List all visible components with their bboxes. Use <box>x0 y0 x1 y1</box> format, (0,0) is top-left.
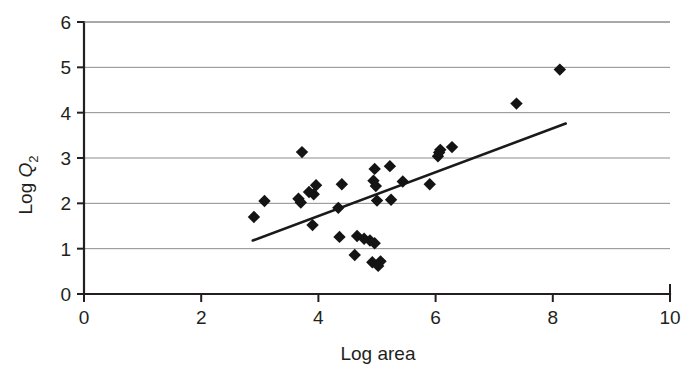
data-point <box>333 231 345 243</box>
x-tick-labels: 0246810 <box>79 307 681 328</box>
regression-line <box>253 124 566 241</box>
data-point <box>554 63 566 75</box>
data-point <box>296 146 308 158</box>
y-tick-label-2: 2 <box>60 193 71 214</box>
x-tick-label-10: 10 <box>659 307 680 328</box>
data-point <box>424 178 436 190</box>
data-point <box>446 141 458 153</box>
y-tick-label-6: 6 <box>60 12 71 33</box>
scatter-plot-figure: 0123456 0246810 Log Q2 Log area <box>0 0 698 376</box>
y-tick-labels: 0123456 <box>60 12 71 305</box>
y-axis <box>77 22 84 294</box>
x-axis-title-text: Log area <box>340 343 415 364</box>
x-tick-label-4: 4 <box>313 307 324 328</box>
y-tick-label-3: 3 <box>60 148 71 169</box>
data-point <box>384 160 396 172</box>
data-point <box>385 194 397 206</box>
trend-line <box>253 124 566 241</box>
data-point <box>258 195 270 207</box>
x-tick-label-0: 0 <box>79 307 90 328</box>
y-tick-label-4: 4 <box>60 103 71 124</box>
data-point <box>368 163 380 175</box>
y-tick-label-0: 0 <box>60 284 71 305</box>
y-tick-label-5: 5 <box>60 57 71 78</box>
gridlines <box>84 22 670 249</box>
x-axis-title: Log area <box>340 343 415 364</box>
data-point <box>510 97 522 109</box>
data-point <box>349 249 361 261</box>
data-point <box>336 178 348 190</box>
x-tick-label-8: 8 <box>548 307 559 328</box>
x-tick-label-2: 2 <box>196 307 207 328</box>
data-points <box>248 63 566 272</box>
svg-text:Log Q2: Log Q2 <box>15 156 41 215</box>
data-point <box>248 211 260 223</box>
x-tick-label-6: 6 <box>430 307 441 328</box>
y-axis-title: Log Q2 <box>15 156 41 215</box>
chart-canvas: 0123456 0246810 Log Q2 Log area <box>0 0 698 376</box>
y-tick-label-1: 1 <box>60 239 71 260</box>
y-axis-title-text: Log <box>15 183 36 215</box>
